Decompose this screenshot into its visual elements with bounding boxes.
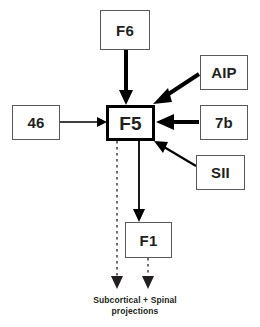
edge-aip-to-f5: [153, 74, 199, 104]
diagram-canvas: F6 AIP 46 F5 7b SII F1 Subcortical + Spi…: [0, 0, 260, 327]
node-sii-label: SII: [211, 165, 230, 180]
edge-f5-to-projections: [111, 141, 123, 289]
node-46-label: 46: [27, 115, 44, 130]
edge-f1-to-projections: [142, 258, 154, 289]
edge-f6-to-f5: [119, 50, 133, 105]
projections-caption-line2: projections: [50, 306, 220, 317]
node-f6-label: F6: [116, 23, 134, 38]
node-f5-label: F5: [119, 114, 142, 133]
projections-caption: Subcortical + Spinal projections: [50, 295, 220, 318]
edge-46-to-f5: [60, 117, 107, 127]
projections-caption-line1: Subcortical + Spinal: [50, 295, 220, 306]
node-f6[interactable]: F6: [100, 10, 150, 50]
edge-7b-to-f5: [156, 114, 199, 130]
edge-sii-to-f5: [154, 141, 196, 166]
node-7b[interactable]: 7b: [200, 105, 248, 140]
node-f1[interactable]: F1: [125, 222, 172, 258]
node-f1-label: F1: [140, 233, 158, 248]
node-7b-label: 7b: [215, 115, 233, 130]
node-46[interactable]: 46: [12, 105, 60, 140]
node-sii[interactable]: SII: [196, 155, 245, 190]
node-aip-label: AIP: [211, 65, 237, 80]
edge-f5-to-f1: [133, 141, 145, 222]
node-f5[interactable]: F5: [106, 105, 155, 141]
node-aip[interactable]: AIP: [200, 55, 248, 90]
